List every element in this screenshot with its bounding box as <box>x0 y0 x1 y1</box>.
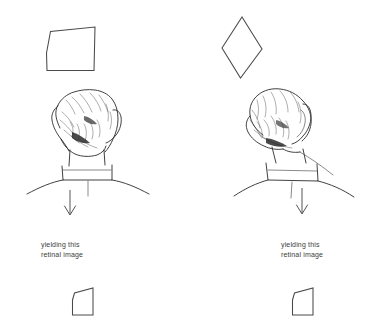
downward-arrow-right <box>297 188 308 214</box>
stimulus-shape-diamond <box>222 17 262 78</box>
right-panel-graphics <box>0 0 373 322</box>
caption-right: yielding this retinal image <box>281 240 323 259</box>
panel-right: yielding this retinal image <box>187 0 373 322</box>
observer-tilted-head <box>234 89 354 198</box>
retinal-image-shape-right <box>293 288 314 315</box>
